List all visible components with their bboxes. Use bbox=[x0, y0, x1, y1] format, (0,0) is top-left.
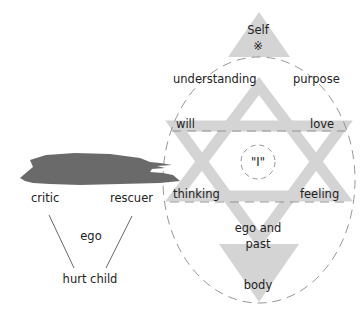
shadow-shape bbox=[20, 153, 180, 185]
label-love: love bbox=[310, 117, 334, 131]
label-thinking: thinking bbox=[173, 187, 220, 201]
psychosynthesis-diagram: Self ※ understanding purpose will love "… bbox=[0, 0, 361, 310]
label-ego: ego bbox=[80, 229, 101, 243]
critic-to-hurt-child-line bbox=[49, 215, 74, 268]
self-label: Self bbox=[247, 23, 270, 37]
body-triangle bbox=[219, 244, 299, 302]
label-i-center: "I" bbox=[251, 155, 265, 169]
label-feeling: feeling bbox=[300, 187, 339, 201]
label-understanding: understanding bbox=[173, 72, 257, 86]
label-purpose: purpose bbox=[293, 72, 340, 86]
label-will: will bbox=[176, 117, 195, 131]
label-body: body bbox=[244, 278, 273, 292]
label-hurt-child: hurt child bbox=[63, 272, 118, 286]
label-critic: critic bbox=[31, 191, 59, 205]
star-upward-triangle bbox=[176, 86, 342, 196]
label-past: past bbox=[246, 237, 271, 251]
label-ego-and: ego and bbox=[235, 221, 282, 235]
rescuer-to-hurt-child-line bbox=[106, 216, 132, 268]
label-rescuer: rescuer bbox=[110, 191, 153, 205]
self-symbol-icon: ※ bbox=[253, 39, 263, 53]
